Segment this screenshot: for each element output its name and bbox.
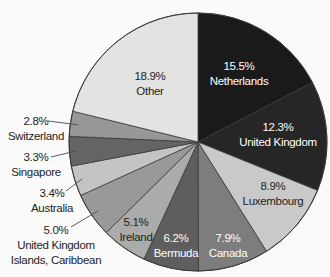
slice-name-text: Singapore xyxy=(11,166,61,178)
slice-name-text: Other xyxy=(136,85,164,97)
pie-chart-figure: 15.5%Netherlands12.3%United Kingdom8.9%L… xyxy=(0,0,330,277)
slice-name-text: United Kingdom xyxy=(17,239,95,251)
slice-label-switzerland: 2.8%Switzerland xyxy=(8,115,64,142)
slice-name-text: Luxembourg xyxy=(243,195,304,207)
slice-pct-text: 18.9% xyxy=(134,70,165,82)
slice-name-text: United Kingdom xyxy=(239,136,317,148)
slice-pct-text: 15.5% xyxy=(223,60,254,72)
slice-pct-text: 6.2% xyxy=(163,232,188,244)
slice-pct-text: 2.8% xyxy=(23,115,48,127)
slice-name-text: Bermuda xyxy=(154,247,199,259)
slice-pct-text: 3.4% xyxy=(39,187,64,199)
slice-label-australia: 3.4%Australia xyxy=(31,187,74,214)
slice-pct-text: 5.1% xyxy=(123,216,148,228)
slice-pct-text: 3.3% xyxy=(23,151,48,163)
slice-name-text: Netherlands xyxy=(210,75,269,87)
slice-name-text: Australia xyxy=(31,202,74,214)
pie-chart: 15.5%Netherlands12.3%United Kingdom8.9%L… xyxy=(0,0,330,277)
slice-name-text: Islands, Caribbean xyxy=(11,254,102,266)
slice-pct-text: 7.9% xyxy=(215,232,240,244)
slice-label-united-kingdom-islands-caribbean: 5.0%United KingdomIslands, Caribbean xyxy=(11,224,102,266)
slice-name-text: Ireland xyxy=(119,231,152,243)
slice-pct-text: 12.3% xyxy=(262,121,293,133)
slice-pct-text: 8.9% xyxy=(260,180,285,192)
slice-name-text: Canada xyxy=(209,247,248,259)
slice-pct-text: 5.0% xyxy=(43,224,68,236)
slice-label-singapore: 3.3%Singapore xyxy=(11,151,61,178)
slice-name-text: Switzerland xyxy=(8,130,64,142)
